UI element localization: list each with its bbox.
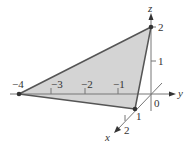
x-tick-label-2: 2 <box>124 124 130 136</box>
z-axis-label: z <box>147 2 153 14</box>
y-tick-label-neg2: −2 <box>81 78 93 90</box>
vertex-z-2 <box>149 25 154 30</box>
y-axis-label: y <box>177 87 183 99</box>
vertex-y-neg4 <box>17 92 22 97</box>
y-axis-arrow-icon <box>169 92 176 97</box>
y-tick-label-neg4: −4 <box>12 78 24 90</box>
x-axis-label: x <box>104 131 110 143</box>
z-tick-label-1: 1 <box>158 55 164 67</box>
diagram-canvas: −4 −3 −2 −1 1 2 1 2 0 y z x <box>0 0 193 151</box>
z-axis-arrow-icon <box>149 13 154 20</box>
y-tick-label-neg3: −3 <box>51 78 63 90</box>
y-tick-label-neg1: −1 <box>113 78 125 90</box>
z-tick-label-2: 2 <box>158 21 164 33</box>
x-tick-label-1: 1 <box>136 110 142 122</box>
origin-label: 0 <box>154 97 160 109</box>
